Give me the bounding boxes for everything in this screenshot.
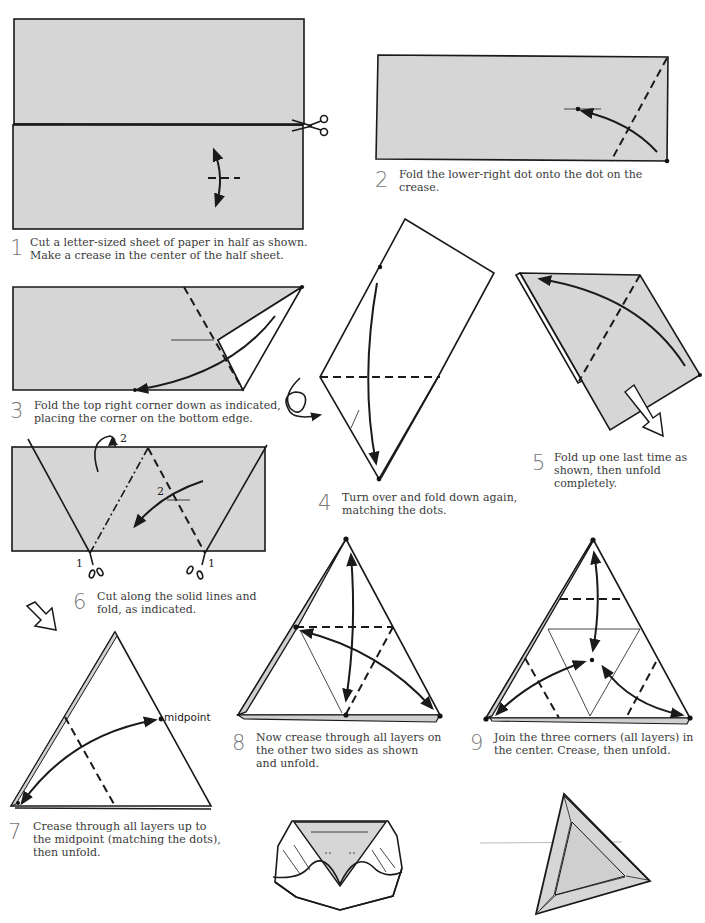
caption-line: Now crease through all layers on [232,731,472,744]
step-4-caption: 4 Turn over and fold down again, matchin… [318,491,548,517]
caption-line: the other two sides as shown [232,744,472,757]
step-9-caption: 9 Join the three corners (all layers) in… [470,731,705,757]
caption-line: Crease through all layers up to [8,820,238,833]
caption-line: completely. [532,477,705,490]
caption-line: crease. [375,181,695,194]
step-3-caption: 3 Fold the top right corner down as indi… [10,399,310,425]
step-number: 8 [232,733,245,753]
step7-midpoint-label: midpoint [164,711,211,723]
caption-line: Turn over and fold down again, [318,491,548,504]
step-number: 1 [10,238,23,258]
step-number: 6 [73,592,86,612]
caption-line: Make a crease in the center of the half … [10,249,320,262]
step-5-caption: 5 Fold up one last time as shown, then u… [532,451,705,490]
step5-diagram [516,273,702,436]
caption-line: then unfold. [8,846,238,859]
step1-diagram [13,19,328,229]
caption-line: Fold the top right corner down as indica… [10,399,310,412]
step-number: 2 [375,170,388,190]
step-6-caption: 6 Cut along the solid lines and fold, as… [73,590,273,616]
step-number: 7 [8,822,21,842]
step-2-caption: 2 Fold the lower-right dot onto the dot … [375,168,695,194]
step-number: 3 [10,401,23,421]
caption-line: Join the three corners (all layers) in [470,731,705,744]
caption-line: and unfold. [232,757,472,770]
caption-line: shown, then unfold [532,464,705,477]
scissors-icon [186,553,205,580]
step-number: 5 [532,453,545,473]
step-number: 4 [318,493,331,513]
caption-line: the center. Crease, then unfold. [470,744,705,757]
step6-fold-front-label: 2 [157,485,164,498]
step6-fold-back-label: 2 [120,432,127,445]
step2-diagram [376,55,669,163]
step4-diagram [320,219,494,481]
step6-cut-label-left: 1 [76,557,83,570]
step3-diagram [13,285,304,392]
caption-line: matching the dots. [318,504,548,517]
assembly-diagram [273,821,402,910]
step-1-caption: 1 Cut a letter-sized sheet of paper in h… [10,236,320,262]
step8-diagram [238,536,443,722]
caption-line: the midpoint (matching the dots), [8,833,238,846]
caption-line: Cut along the solid lines and [73,590,273,603]
step9-diagram [483,537,692,724]
caption-line: Fold up one last time as [532,451,705,464]
caption-line: placing the corner on the bottom edge. [10,412,310,425]
caption-line: fold, as indicated. [73,603,273,616]
step6-diagram [12,436,267,580]
hollow-arrow-icon [27,602,56,630]
step-number: 9 [470,733,483,753]
step-7-caption: 7 Crease through all layers up to the mi… [8,820,238,859]
step-8-caption: 8 Now crease through all layers on the o… [232,731,472,770]
scissors-icon [88,553,104,579]
caption-line: Cut a letter-sized sheet of paper in hal… [10,236,320,249]
final-tetrahedron-diagram [480,794,650,914]
step6-cut-label-right: 1 [208,557,215,570]
caption-line: Fold the lower-right dot onto the dot on… [375,168,695,181]
